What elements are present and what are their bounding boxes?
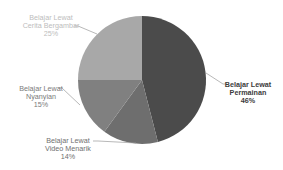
data-label-percent: 14%: [28, 153, 108, 161]
data-label-video-menarik: Belajar Lewat Video Menarik 14%: [28, 137, 108, 161]
data-label-nyanyian: Belajar Lewat Nyanyian 15%: [5, 85, 77, 109]
data-label-percent: 46%: [213, 97, 283, 105]
data-label-percent: 25%: [10, 30, 92, 38]
data-label-percent: 15%: [5, 101, 77, 109]
pie-slices: [78, 16, 206, 144]
data-label-cerita-bergambar: Belajar Lewat Cerita Bergambar 25%: [10, 14, 92, 38]
data-label-permainan: Belajar Lewat Permainan 46%: [213, 81, 283, 105]
